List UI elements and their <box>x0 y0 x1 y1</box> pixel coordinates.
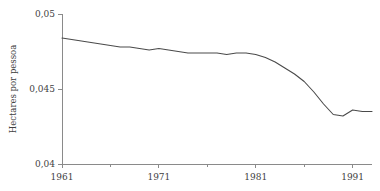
x-tick-label: 1961 <box>51 172 74 182</box>
y-tick-label: 0,05 <box>35 9 55 19</box>
y-axis: 0,040,0450,05 <box>29 9 62 169</box>
chart-canvas: 0,040,0450,05 1961197119811991 Hectares … <box>0 0 380 191</box>
plot-area <box>62 38 372 116</box>
x-axis: 1961197119811991 <box>51 164 372 182</box>
x-tick-label: 1991 <box>341 172 364 182</box>
x-tick-group <box>62 164 353 168</box>
x-tick-label-group: 1961197119811991 <box>51 172 365 182</box>
x-tick-label: 1981 <box>244 172 267 182</box>
y-tick-group <box>58 14 62 164</box>
x-tick-label: 1971 <box>147 172 170 182</box>
y-tick-label-group: 0,040,0450,05 <box>29 9 55 169</box>
y-tick-label: 0,04 <box>35 159 55 169</box>
y-axis-title: Hectares por pessoa <box>8 45 18 134</box>
data-series-line <box>62 38 372 116</box>
y-tick-label: 0,045 <box>29 84 55 94</box>
line-chart: 0,040,0450,05 1961197119811991 Hectares … <box>0 0 380 191</box>
